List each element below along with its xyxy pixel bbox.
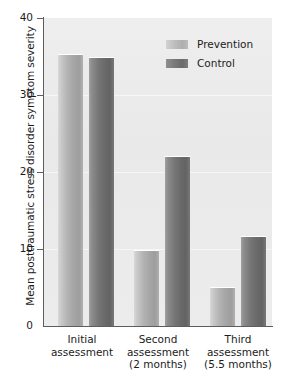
x-label-second-line-3: (2 months) <box>120 358 196 371</box>
bar-control-third <box>241 236 266 326</box>
x-label-third-line-1: Third <box>196 333 280 346</box>
y-tick-20 <box>37 172 44 173</box>
legend-label-prevention: Prevention <box>197 38 253 50</box>
legend-swatch-control <box>166 59 188 68</box>
x-label-initial-line-2: assessment <box>44 346 120 359</box>
legend-label-control: Control <box>197 57 235 69</box>
x-label-initial-line-1: Initial <box>44 333 120 346</box>
x-axis-line <box>43 326 273 327</box>
x-label-initial: Initial assessment <box>44 333 120 358</box>
y-tick-40 <box>37 18 44 19</box>
x-label-third: Third assessment (5.5 months) <box>196 333 280 371</box>
legend-item-prevention: Prevention <box>166 38 253 50</box>
plot-area: Prevention Control <box>44 18 272 326</box>
y-tick-label-20: 20 <box>20 165 33 177</box>
bar-control-second <box>165 156 190 326</box>
legend-swatch-prevention <box>166 40 188 49</box>
x-label-second-line-2: assessment <box>120 346 196 359</box>
y-tick-label-40: 40 <box>20 11 33 23</box>
legend-item-control: Control <box>166 57 253 69</box>
y-tick-label-10: 10 <box>20 242 33 254</box>
bar-prevention-second <box>134 250 159 326</box>
y-tick-label-30: 30 <box>20 88 33 100</box>
x-label-third-line-3: (5.5 months) <box>196 358 280 371</box>
bar-prevention-third <box>210 287 235 326</box>
bar-control-initial <box>89 57 114 326</box>
legend: Prevention Control <box>166 38 253 76</box>
x-label-third-line-2: assessment <box>196 346 280 359</box>
bar-prevention-initial <box>58 54 83 326</box>
x-label-second: Second assessment (2 months) <box>120 333 196 371</box>
y-tick-30 <box>37 95 44 96</box>
bar-chart-figure: Mean posttraumatic stress disorder sympt… <box>0 0 284 383</box>
y-tick-label-0: 0 <box>26 319 33 331</box>
x-label-second-line-1: Second <box>120 333 196 346</box>
y-tick-10 <box>37 249 44 250</box>
